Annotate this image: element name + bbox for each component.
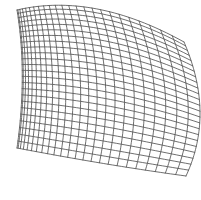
mesh-line-col (172, 36, 188, 175)
figure-canvas (0, 0, 201, 200)
mesh-line-row (22, 70, 200, 105)
mesh-line-row (21, 108, 197, 141)
mesh-line-row (22, 53, 198, 88)
mesh-lines-vertical (17, 5, 200, 176)
mesh-line-col (184, 42, 200, 176)
mesh-line-row (22, 59, 199, 94)
mesh-line-col (161, 30, 177, 173)
mesh-line-row (20, 121, 195, 153)
mesh-line-row (22, 76, 200, 111)
mesh-grid-surface (0, 0, 201, 200)
